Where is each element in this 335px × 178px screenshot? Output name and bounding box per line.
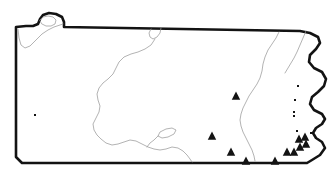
map-figure — [0, 0, 335, 178]
map-marker-dot — [296, 130, 298, 132]
pennsylvania-map-svg — [0, 0, 335, 178]
map-marker-dot — [297, 85, 299, 87]
map-marker-dot — [294, 99, 296, 101]
map-marker-dot — [34, 114, 36, 116]
map-marker-dot — [310, 132, 312, 134]
state-outline-pennsylvania — [16, 13, 326, 163]
map-marker-dot — [293, 115, 295, 117]
map-marker-dot — [293, 111, 295, 113]
